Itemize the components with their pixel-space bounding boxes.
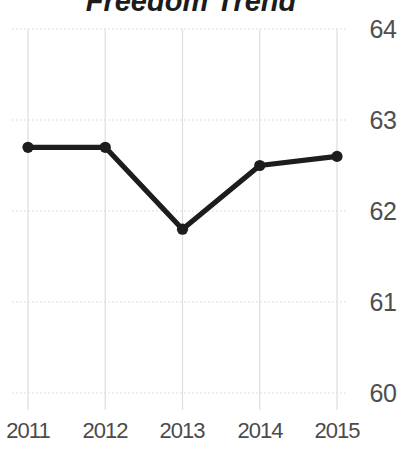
x-tick-label: 2015 bbox=[307, 418, 367, 444]
data-point bbox=[331, 151, 342, 162]
y-tick-label: 60 bbox=[361, 379, 404, 407]
x-tick-label: 2012 bbox=[75, 418, 135, 444]
y-tick-label: 63 bbox=[361, 106, 404, 134]
x-tick-label: 2013 bbox=[152, 418, 212, 444]
vertical-gridlines bbox=[28, 29, 337, 410]
data-point bbox=[177, 224, 188, 235]
x-tick-label: 2011 bbox=[0, 418, 58, 444]
y-tick-label: 61 bbox=[361, 288, 404, 316]
data-point bbox=[100, 142, 111, 153]
y-tick-label: 64 bbox=[361, 15, 404, 43]
data-point bbox=[22, 142, 33, 153]
trend-line-chart bbox=[0, 0, 404, 458]
y-tick-label: 62 bbox=[361, 197, 404, 225]
chart-card: Freedom Trend 64 63 62 61 60 2011 2012 2… bbox=[0, 0, 404, 458]
horizontal-gridlines bbox=[12, 29, 348, 393]
data-point bbox=[254, 160, 265, 171]
x-tick-label: 2014 bbox=[230, 418, 290, 444]
